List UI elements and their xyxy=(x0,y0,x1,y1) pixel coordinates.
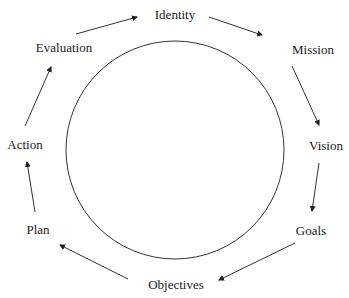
node-plan: Plan xyxy=(26,222,49,238)
node-goals: Goals xyxy=(296,223,326,239)
node-objectives: Objectives xyxy=(148,277,204,293)
node-vision: Vision xyxy=(309,138,343,154)
node-mission: Mission xyxy=(292,42,334,58)
arrow-mission-vision xyxy=(292,66,319,125)
arrow-plan-action xyxy=(27,162,35,212)
arrow-objectives-plan xyxy=(60,245,128,279)
arrow-vision-goals xyxy=(312,163,319,211)
arrow-goals-objectives xyxy=(219,243,295,280)
node-evaluation: Evaluation xyxy=(36,40,92,56)
node-action: Action xyxy=(7,137,42,153)
arrow-identity-mission xyxy=(209,17,262,35)
arrow-action-evaluation xyxy=(25,67,51,126)
arrow-evaluation-identity xyxy=(76,17,137,34)
node-identity: Identity xyxy=(155,7,195,23)
center-circle xyxy=(66,41,284,259)
